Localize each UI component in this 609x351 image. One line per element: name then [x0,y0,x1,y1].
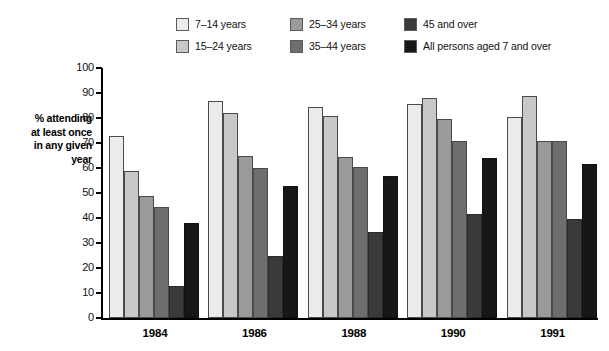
y-axis-tick-label: 10 [72,286,94,298]
y-axis-tick-mark [96,292,102,294]
bar [338,157,353,318]
bar [208,101,223,319]
y-axis-tick-mark [96,217,102,219]
x-axis-tick-label: 1988 [308,327,400,339]
y-axis-tick-label: 40 [72,211,94,223]
x-axis-tick-label: 1986 [208,327,300,339]
legend-item-label: 35–44 years [309,40,366,52]
bar [482,158,497,318]
legend-swatch-icon [176,40,189,53]
y-axis-tick-label: 20 [72,261,94,273]
y-axis-tick-label: 90 [72,86,94,98]
bar [124,171,139,319]
bar-group [407,68,499,318]
bar [253,168,268,318]
plot-area [101,68,598,318]
legend-swatch-icon [176,18,189,31]
legend-item-label: 15–24 years [195,40,252,52]
bar [139,196,154,319]
x-axis-tick-labels: 19841986198819901991 [101,327,598,345]
y-axis-tick-label: 70 [72,136,94,148]
legend-item-label: 25–34 years [309,18,366,30]
bar [154,207,169,318]
legend-item-label: 45 and over [423,18,477,30]
y-axis-tick-mark [96,317,102,319]
x-axis-tick-label: 1990 [407,327,499,339]
legend-swatch-icon [290,18,303,31]
legend-item: All persons aged 7 and over [404,36,596,56]
bar [522,96,537,319]
legend-item-label: 7–14 years [195,18,246,30]
bar [437,119,452,318]
y-axis-tick-mark [96,267,102,269]
bar [368,232,383,318]
y-axis-tick-mark [96,92,102,94]
bar [109,136,124,319]
bar [582,164,597,318]
x-axis-tick-label: 1984 [109,327,201,339]
bar [452,141,467,319]
legend-item: 25–34 years [290,14,404,34]
bar [223,113,238,318]
bar [567,219,582,318]
chart-legend: 7–14 years25–34 years45 and over15–24 ye… [176,14,596,56]
bar [507,117,522,318]
y-axis-tick-mark [96,167,102,169]
bar-group [208,68,300,318]
bar [383,176,398,319]
bar [467,214,482,318]
bar [552,141,567,319]
bar [184,223,199,318]
legend-item: 7–14 years [176,14,290,34]
legend-swatch-icon [404,18,417,31]
y-axis-tick-label: 50 [72,186,94,198]
y-axis-tick-label: 80 [72,111,94,123]
y-axis-tick-mark [96,117,102,119]
y-axis-tick-label: 100 [72,61,94,73]
legend-item: 45 and over [404,14,596,34]
y-axis-tick-labels: 1009080706050403020100 [70,68,94,320]
bar [353,167,368,318]
y-axis-tick-mark [96,142,102,144]
bar-group [308,68,400,318]
y-axis-tick-label: 0 [72,311,94,323]
y-axis-tick-mark [96,67,102,69]
bar [407,104,422,318]
legend-item-label: All persons aged 7 and over [423,40,551,52]
y-axis-tick-label: 30 [72,236,94,248]
bar [422,98,437,318]
bar-group [507,68,599,318]
y-axis-tick-mark [96,192,102,194]
y-axis-tick-label: 60 [72,161,94,173]
bar [283,186,298,319]
bar [537,141,552,319]
bar [308,107,323,318]
legend-swatch-icon [290,40,303,53]
legend-item: 15–24 years [176,36,290,56]
y-axis-tick-mark [96,242,102,244]
legend-swatch-icon [404,40,417,53]
x-axis-line [101,318,598,320]
bar [268,256,283,319]
x-axis-tick-label: 1991 [507,327,599,339]
bar [238,156,253,319]
bar [323,116,338,319]
bar-group [109,68,201,318]
legend-item: 35–44 years [290,36,404,56]
bar [169,286,184,319]
